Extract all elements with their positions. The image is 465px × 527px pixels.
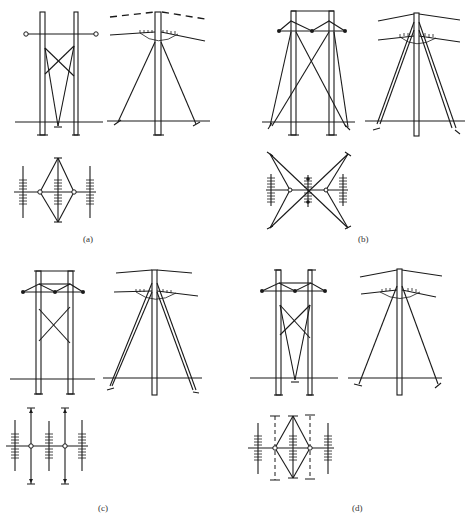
panel-a-front-view (15, 12, 103, 135)
panel-a-side-view (107, 12, 210, 135)
panel-b-side-view (365, 13, 465, 136)
panel-c-plan-view (6, 408, 88, 484)
panel-d-label: (d) (352, 503, 363, 513)
panel-b-label: (b) (358, 234, 369, 244)
panel-b-front-view (262, 11, 355, 135)
panel-a-plan-view (14, 158, 96, 222)
panel-d-side-view (348, 269, 442, 395)
panel-c-side-view (103, 270, 202, 395)
panel-b-plan-view (266, 152, 351, 229)
panel-d-plan-view (248, 415, 334, 480)
panel-a-label: (a) (83, 234, 93, 244)
tower-guying-diagram (0, 0, 465, 527)
panel-d-front-view (250, 270, 338, 395)
panel-c-front-view (10, 271, 95, 394)
panel-c-label: (c) (98, 503, 108, 513)
